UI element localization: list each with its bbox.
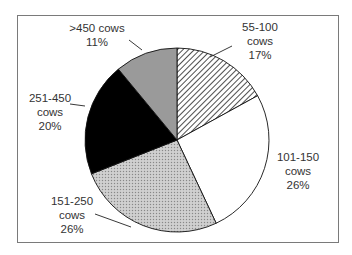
label-55-100: 55-100 cows 17% <box>230 20 290 62</box>
label-range: 251-450 <box>20 91 80 105</box>
label-range: 151-250 <box>42 194 102 208</box>
label-101-150: 101-150 cows 26% <box>268 150 328 192</box>
label-151-250: 151-250 cows 26% <box>42 194 102 236</box>
label-range: 101-150 <box>268 150 328 164</box>
label-unit: cows <box>268 164 328 178</box>
leader-line-55-100 <box>210 46 232 57</box>
label-unit: cows <box>42 208 102 222</box>
label-percent: 20% <box>20 119 80 133</box>
label-251-450: 251-450 cows 20% <box>20 91 80 133</box>
label-percent: 26% <box>268 178 328 192</box>
label-percent: 17% <box>230 48 290 62</box>
label-unit: cows <box>20 105 80 119</box>
label-range: 55-100 <box>230 20 290 34</box>
label-percent: 11% <box>62 35 132 49</box>
label-gt450: >450 cows 11% <box>62 21 132 49</box>
label-unit: cows <box>230 34 290 48</box>
label-percent: 26% <box>42 222 102 236</box>
label-range: >450 cows <box>62 21 132 35</box>
